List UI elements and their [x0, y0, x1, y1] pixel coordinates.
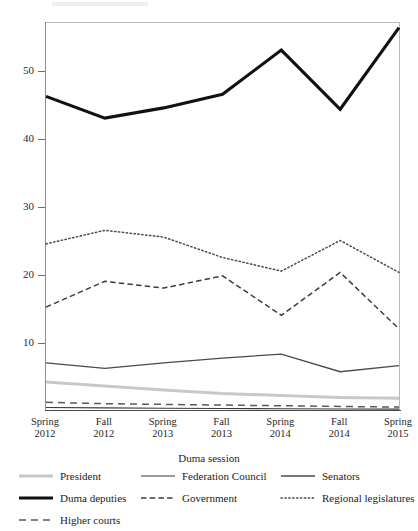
- x-axis-tick-label: Fall2013: [211, 416, 232, 439]
- series-line-regional-legislatures: [46, 230, 399, 272]
- legend-swatch-line: [18, 514, 54, 526]
- legend-swatch-line: [18, 492, 54, 504]
- x-axis-tick-label: Spring2015: [384, 416, 412, 439]
- y-axis-tick: [38, 207, 45, 208]
- y-axis-tick: [38, 275, 45, 276]
- x-label-line: Spring: [149, 416, 177, 428]
- x-axis-tick-label: Spring2013: [149, 416, 177, 439]
- legend-label: Duma deputies: [60, 492, 126, 504]
- chart-legend: PresidentFederation CouncilSenatorsDuma …: [18, 470, 408, 528]
- x-axis-tick-label: Spring2012: [31, 416, 59, 439]
- legend-swatch-line: [18, 470, 54, 482]
- x-label-line: 2014: [266, 428, 294, 440]
- x-label-line: Spring: [266, 416, 294, 428]
- series-line-higher-courts: [46, 402, 399, 407]
- legend-item-federation-council[interactable]: Federation Council: [140, 470, 267, 482]
- legend-label: Senators: [322, 470, 360, 482]
- y-axis-tick: [38, 343, 45, 344]
- x-label-line: Spring: [31, 416, 59, 428]
- x-axis-tick-labels: Spring2012Fall2012Spring2013Fall2013Spri…: [45, 416, 401, 450]
- series-line-government: [46, 272, 399, 328]
- legend-swatch-line: [140, 492, 176, 504]
- series-line-federation-council: [46, 407, 399, 409]
- y-axis-tick: [38, 139, 45, 140]
- x-label-line: 2015: [384, 428, 412, 440]
- legend-item-president[interactable]: President: [18, 470, 101, 482]
- series-line-duma-deputies: [46, 28, 399, 118]
- x-label-line: 2012: [31, 428, 59, 440]
- chart-figure: 1020304050 Spring2012Fall2012Spring2013F…: [0, 0, 418, 531]
- x-label-line: 2013: [211, 428, 232, 440]
- legend-item-regional-legislatures[interactable]: Regional legislatures: [280, 492, 415, 504]
- legend-label: Higher courts: [60, 514, 120, 526]
- x-axis-title: Duma session: [0, 452, 418, 464]
- legend-label: President: [60, 470, 101, 482]
- x-label-line: 2012: [93, 428, 114, 440]
- legend-item-higher-courts[interactable]: Higher courts: [18, 514, 120, 526]
- legend-swatch-line: [280, 492, 316, 504]
- x-label-line: 2014: [329, 428, 350, 440]
- x-axis-tick-label: Fall2012: [93, 416, 114, 439]
- x-axis-tick-label: Fall2014: [329, 416, 350, 439]
- x-label-line: Fall: [93, 416, 114, 428]
- x-axis-tick-label: Spring2014: [266, 416, 294, 439]
- legend-label: Federation Council: [182, 470, 267, 482]
- legend-swatch-line: [280, 470, 316, 482]
- legend-item-senators[interactable]: Senators: [280, 470, 360, 482]
- x-label-line: Spring: [384, 416, 412, 428]
- legend-label: Government: [182, 492, 237, 504]
- y-axis-tick: [38, 71, 45, 72]
- x-label-line: Fall: [211, 416, 232, 428]
- legend-label: Regional legislatures: [322, 492, 415, 504]
- legend-item-government[interactable]: Government: [140, 492, 237, 504]
- series-line-president: [46, 382, 399, 398]
- x-label-line: Fall: [329, 416, 350, 428]
- legend-item-duma-deputies[interactable]: Duma deputies: [18, 492, 126, 504]
- series-line-senators: [46, 354, 399, 372]
- x-label-line: 2013: [149, 428, 177, 440]
- legend-swatch-line: [140, 470, 176, 482]
